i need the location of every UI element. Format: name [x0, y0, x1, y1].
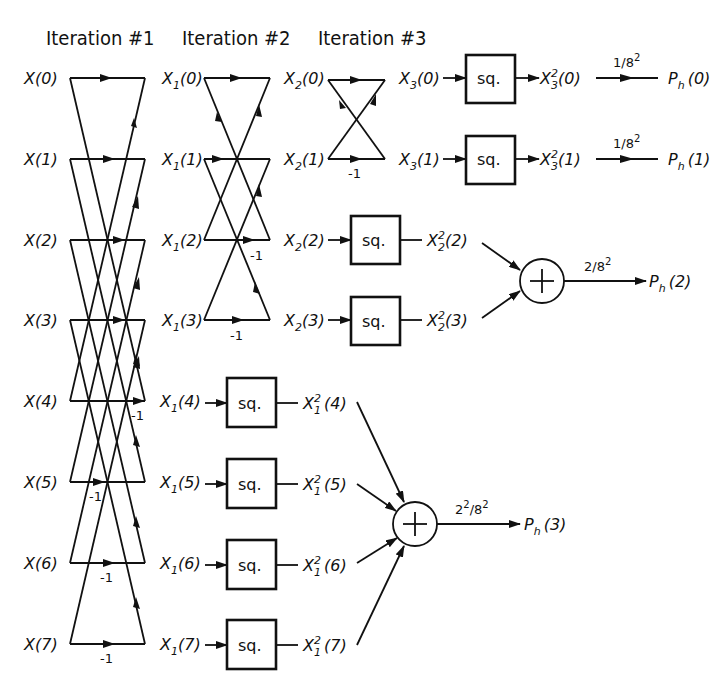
scale-factor-p2: 2/82	[584, 256, 611, 274]
x2-squared-label-3: X22(3)	[426, 309, 468, 334]
input-label-4: X(4)	[23, 392, 58, 411]
input-label-3: X(3)	[23, 311, 58, 330]
x1-squared-label-7: X21(7)	[302, 634, 347, 659]
iteration-2-butterfly: X1(0) X1(1) X1(2) X1(3) -1 -1	[161, 69, 270, 343]
output-ph-0: Ph(0)	[668, 69, 710, 92]
input-label-0: X(0)	[23, 69, 58, 88]
x2-label-0: X2(0)	[283, 69, 325, 92]
x1-label-3: X1(3)	[161, 311, 203, 334]
output-ph-3: Ph(3)	[524, 515, 566, 538]
x1-squared-label-6: X21(6)	[302, 554, 347, 579]
svg-text:sq.: sq.	[238, 636, 262, 655]
twiddle-minus1-x1-3: -1	[230, 328, 243, 343]
x3-squared-label-1: X23(1)	[539, 148, 581, 173]
twiddle-minus1-row6: -1	[100, 570, 113, 585]
svg-text:sq.: sq.	[238, 475, 262, 494]
input-label-2: X(2)	[23, 231, 58, 250]
x3-branch: X3(0) X3(1) sq. sq. X23(0) X23(1) 1/82 1…	[398, 52, 710, 184]
x2-label-2: X2(2)	[283, 231, 325, 254]
output-ph-1: Ph(1)	[668, 150, 710, 173]
svg-text:sq.: sq.	[238, 556, 262, 575]
scale-factor-p1: 1/82	[613, 133, 640, 151]
x3-label-0: X3(0)	[398, 69, 440, 92]
twiddle-minus1-row7: -1	[100, 651, 113, 666]
twiddle-minus1-x2-1: -1	[348, 166, 361, 181]
x1-label-0: X1(0)	[161, 69, 203, 92]
title-iteration-1: Iteration #1	[46, 26, 155, 50]
x2-label-3: X2(3)	[283, 311, 325, 334]
x1-label-2: X1(2)	[161, 231, 203, 254]
svg-text:sq.: sq.	[362, 312, 386, 331]
input-label-6: X(6)	[23, 554, 58, 573]
input-label-1: X(1)	[23, 150, 58, 169]
input-label-5: X(5)	[23, 473, 58, 492]
x1-branch: X1(4) X1(5) X1(6) X1(7) sq. sq. sq. sq. …	[159, 378, 566, 669]
x1-squared-label-4: X21(4)	[302, 392, 347, 417]
twiddle-minus1-row5: -1	[89, 489, 102, 504]
x1-label-6: X1(6)	[159, 554, 201, 577]
x1-label-4: X1(4)	[159, 392, 201, 415]
x3-label-1: X3(1)	[398, 150, 440, 173]
output-ph-2: Ph(2)	[649, 272, 691, 295]
iteration-1-butterfly: X(0) X(1) X(2) X(3) X(4) X(5) X(6) X(7)	[23, 69, 145, 666]
twiddle-minus1-x1-2: -1	[250, 248, 263, 263]
iteration-3-butterfly: X2(0) X2(1) -1	[283, 69, 385, 181]
x1-label-7: X1(7)	[159, 635, 201, 658]
svg-text:sq.: sq.	[362, 231, 386, 250]
scale-factor-p0: 1/82	[613, 52, 640, 70]
power-spectrum-flow-diagram: Iteration #1 Iteration #2 Iteration #3 X…	[0, 0, 722, 687]
scale-factor-p3: 22/82	[455, 499, 489, 517]
x1-label-5: X1(5)	[159, 473, 201, 496]
x1-label-1: X1(1)	[161, 150, 203, 173]
title-iteration-2: Iteration #2	[182, 26, 291, 50]
x1-squared-label-5: X21(5)	[302, 473, 347, 498]
svg-text:sq.: sq.	[477, 69, 501, 88]
svg-text:sq.: sq.	[477, 150, 501, 169]
svg-text:sq.: sq.	[238, 394, 262, 413]
input-labels: X(0) X(1) X(2) X(3) X(4) X(5) X(6) X(7)	[23, 69, 58, 654]
x3-squared-label-0: X23(0)	[539, 67, 581, 92]
x2-label-1: X2(1)	[283, 150, 325, 173]
title-iteration-3: Iteration #3	[318, 26, 427, 50]
input-label-7: X(7)	[23, 635, 58, 654]
twiddle-minus1-row4: -1	[131, 408, 144, 423]
x2-branch: X2(2) X2(3) sq. sq. X22(2) X22(3) 2/82 P…	[283, 216, 691, 345]
x2-squared-label-2: X22(2)	[426, 229, 468, 254]
